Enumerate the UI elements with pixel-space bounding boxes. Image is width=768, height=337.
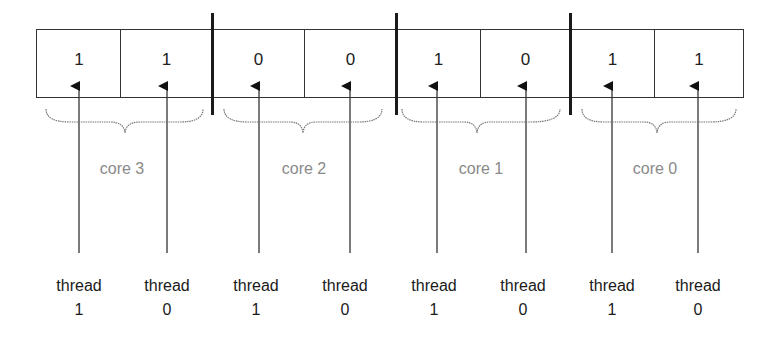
core-label: core 3 xyxy=(81,160,163,178)
thread-label: thread 1 xyxy=(399,274,469,322)
brace-icon xyxy=(46,109,203,133)
thread-label: thread 0 xyxy=(488,274,558,322)
thread-label: thread 1 xyxy=(577,274,647,322)
thread-arrows xyxy=(79,86,698,253)
thread-label: thread 1 xyxy=(44,274,114,322)
thread-label: thread 0 xyxy=(310,274,380,322)
brace-icon xyxy=(402,109,560,133)
core-label: core 0 xyxy=(615,160,695,178)
core-label: core 1 xyxy=(440,160,522,178)
thread-label: thread 1 xyxy=(221,274,291,322)
brace-icon xyxy=(224,109,382,133)
core-braces xyxy=(46,109,736,133)
thread-label: thread 0 xyxy=(663,274,733,322)
brace-icon xyxy=(582,109,736,133)
cpu-thread-mask-diagram: 1 1 0 0 1 0 1 1 xyxy=(0,0,768,337)
core-label: core 2 xyxy=(262,160,346,178)
thread-label: thread 0 xyxy=(132,274,202,322)
